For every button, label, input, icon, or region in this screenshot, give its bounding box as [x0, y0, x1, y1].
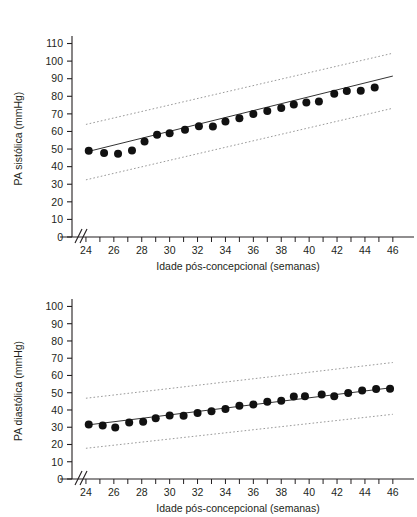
data-point [357, 87, 365, 95]
data-point [209, 123, 217, 131]
x-tick-label: 36 [248, 486, 260, 498]
data-point [221, 117, 229, 125]
y-tick-label: 60 [51, 125, 63, 137]
data-point [181, 126, 189, 134]
x-tick-label: 32 [192, 244, 204, 256]
data-point [85, 420, 93, 428]
y-tick-label: 70 [51, 352, 63, 364]
y-tick-label: 30 [51, 178, 63, 190]
data-point [344, 389, 352, 397]
x-tick-label: 40 [303, 244, 315, 256]
chart-systolic: 0102030405060708090100110242628303234363… [0, 0, 417, 275]
y-tick-label: 80 [51, 90, 63, 102]
y-tick-label: 60 [51, 369, 63, 381]
x-tick-label: 44 [359, 244, 371, 256]
data-point [166, 412, 174, 420]
data-point [207, 407, 215, 415]
data-point [343, 87, 351, 95]
data-point [180, 412, 188, 420]
data-point [263, 107, 271, 115]
data-points [85, 83, 379, 157]
x-tick-label: 40 [303, 486, 315, 498]
data-point [301, 392, 309, 400]
data-point [249, 400, 257, 408]
y-tick-label: 100 [45, 300, 63, 312]
y-tick-label: 20 [51, 196, 63, 208]
data-point [277, 104, 285, 112]
y-tick-label: 10 [51, 456, 63, 468]
data-point [315, 98, 323, 106]
data-point [111, 424, 119, 432]
y-tick-label: 40 [51, 404, 63, 416]
x-tick-label: 38 [275, 486, 287, 498]
x-axis-minor-ticks [86, 237, 393, 242]
data-point [263, 398, 271, 406]
data-point [302, 98, 310, 106]
y-tick-label: 10 [51, 213, 63, 225]
y-tick-label: 90 [51, 318, 63, 330]
x-axis-title: Idade pós-concepcional (semanas) [156, 260, 319, 272]
data-point [235, 114, 243, 122]
data-point [290, 101, 298, 109]
data-point [235, 402, 243, 410]
data-point [125, 419, 133, 427]
data-point [249, 110, 257, 118]
chart-bottom-svg: 0102030405060708090100242628303234363840… [0, 275, 417, 517]
x-tick-label: 26 [108, 486, 120, 498]
data-point [195, 122, 203, 130]
x-tick-label: 30 [164, 244, 176, 256]
y-axis-ticks: 0102030405060708090100 [45, 300, 72, 485]
y-axis-title: PA sistólica (mmHg) [12, 92, 24, 186]
data-point [221, 405, 229, 413]
data-point [371, 83, 379, 91]
x-tick-label: 28 [136, 244, 148, 256]
x-tick-label: 44 [359, 486, 371, 498]
data-point [290, 393, 298, 401]
x-axis-break-marker [75, 229, 87, 243]
data-point [166, 129, 174, 137]
data-point [100, 149, 108, 157]
x-tick-label: 46 [387, 486, 399, 498]
data-point [318, 390, 326, 398]
x-axis-labels: 242628303234363840424446 [80, 244, 399, 256]
data-point [99, 422, 107, 430]
x-axis-break-marker [75, 471, 87, 485]
x-tick-label: 42 [331, 486, 343, 498]
data-point [372, 385, 380, 393]
data-point [277, 397, 285, 405]
y-tick-label: 20 [51, 438, 63, 450]
data-point [141, 137, 149, 145]
data-point [114, 150, 122, 158]
chart-top-svg: 0102030405060708090100110242628303234363… [0, 0, 417, 275]
x-axis-title: Idade pós-concepcional (semanas) [156, 502, 319, 514]
chart-diastolic: 0102030405060708090100242628303234363840… [0, 275, 417, 517]
y-tick-label: 90 [51, 72, 63, 84]
x-tick-label: 26 [108, 244, 120, 256]
x-tick-label: 42 [331, 244, 343, 256]
data-point [330, 392, 338, 400]
x-tick-label: 34 [220, 244, 232, 256]
x-tick-label: 28 [136, 486, 148, 498]
data-point [358, 386, 366, 394]
y-tick-label: 0 [57, 231, 63, 243]
data-point [85, 147, 93, 155]
x-tick-label: 30 [164, 486, 176, 498]
x-tick-label: 24 [80, 486, 92, 498]
x-tick-label: 34 [220, 486, 232, 498]
y-tick-label: 50 [51, 143, 63, 155]
y-tick-label: 40 [51, 160, 63, 172]
data-point [330, 90, 338, 98]
y-tick-label: 50 [51, 387, 63, 399]
y-tick-label: 80 [51, 335, 63, 347]
y-tick-label: 0 [57, 473, 63, 485]
data-point [152, 414, 160, 422]
data-point [139, 418, 147, 426]
y-tick-label: 110 [46, 37, 63, 49]
x-axis-labels: 242628303234363840424446 [80, 486, 399, 498]
y-tick-label: 30 [51, 421, 63, 433]
x-tick-label: 36 [248, 244, 260, 256]
y-axis-title: PA diastólica (mmHg) [12, 341, 24, 441]
x-tick-label: 38 [275, 244, 287, 256]
data-point [194, 409, 202, 417]
data-point [153, 131, 161, 139]
